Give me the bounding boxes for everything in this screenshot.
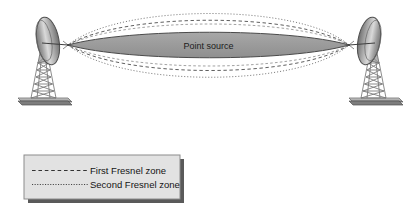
tower-brace-2-r	[363, 84, 384, 91]
antenna-dish-left	[33, 15, 63, 66]
antenna-dish-right	[354, 15, 384, 66]
antenna-lattice-tower-right	[361, 62, 386, 98]
legend-label-second-fresnel-zone: Second Fresnel zone	[90, 179, 180, 190]
focal-point-right	[348, 44, 350, 46]
tower-brace-2	[33, 84, 54, 91]
tower-brace-1	[31, 91, 56, 98]
antenna-base-plate-left	[18, 98, 72, 105]
parabolic-dish-antenna-left	[18, 15, 72, 105]
tower-brace-3	[35, 77, 53, 84]
legend-panel	[24, 155, 180, 199]
legend-label-first-fresnel-zone: First Fresnel zone	[90, 165, 166, 176]
base-plate-edge-right	[349, 101, 403, 105]
legend: First Fresnel zone Second Fresnel zone	[24, 155, 184, 203]
point-source-ellipse: Point source	[68, 32, 349, 58]
base-plate-edge-left	[18, 101, 72, 105]
tower-brace-4	[36, 70, 51, 77]
tower-brace-1-r	[361, 91, 386, 98]
antenna-lattice-tower-left	[31, 62, 56, 98]
tower-brace-4-r	[366, 70, 381, 77]
fresnel-zone-diagram: Point source	[0, 0, 416, 219]
point-source-label: Point source	[183, 41, 233, 51]
tower-brace-3-r	[365, 77, 383, 84]
parabolic-dish-antenna-right	[348, 15, 403, 105]
antenna-base-plate-right	[349, 98, 403, 105]
diagram-canvas: Point source	[0, 0, 416, 219]
focal-point-left	[67, 44, 69, 46]
